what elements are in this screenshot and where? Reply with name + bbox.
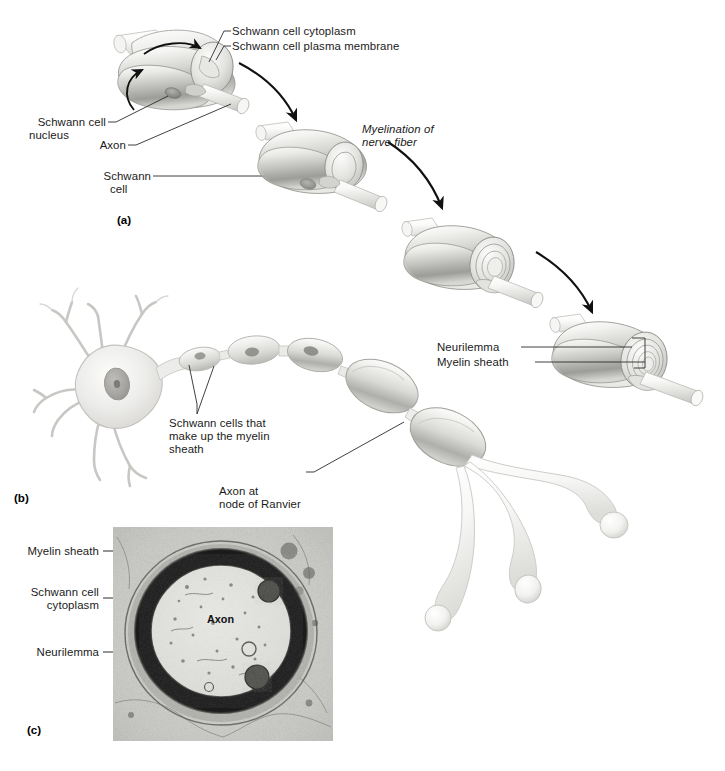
label-schwann-cytoplasm-c-line2: cytoplasm [0, 599, 99, 612]
figure-artwork [0, 0, 725, 771]
panel-a-stage4-myelinated-fiber [549, 314, 705, 407]
label-schwann-cell-cytoplasm: Schwann cell cytoplasm [232, 25, 356, 38]
synaptic-knob-1 [600, 512, 628, 538]
label-schwann-cells-line3: sheath [169, 443, 204, 456]
label-schwann-cell-nucleus-line1: Schwann cell [0, 116, 106, 129]
label-schwann-cells-line2: make up the myelin [169, 430, 270, 443]
stage-arrow-1 [239, 63, 296, 120]
internode-3 [284, 334, 345, 377]
label-myelin-sheath-c: Myelin sheath [0, 545, 99, 558]
label-schwann-cell-plasma-membrane: Schwann cell plasma membrane [232, 40, 399, 53]
myelination-figure: Axon Schwann cell cytoplasm Schwann cell… [0, 0, 725, 771]
label-node-of-ranvier-line2: node of Ranvier [219, 498, 301, 511]
synaptic-knob-3 [425, 605, 451, 631]
label-schwann-cell-line2: cell [110, 183, 128, 196]
label-node-of-ranvier-line1: Axon at [219, 485, 258, 498]
label-neurilemma-a: Neurilemma [437, 341, 499, 354]
label-schwann-cytoplasm-c-line1: Schwann cell [0, 586, 99, 599]
stage-arrow-2 [388, 142, 442, 208]
label-neurilemma-c: Neurilemma [0, 646, 99, 659]
panel-b-id: (b) [14, 491, 29, 504]
label-myelin-sheath-a: Myelin sheath [437, 356, 509, 369]
label-axon: Axon [0, 139, 126, 152]
panel-c-id: (c) [27, 723, 41, 736]
panel-c-electron-micrograph [113, 527, 333, 741]
label-schwann-cell-line1: Schwann [0, 170, 151, 183]
panel-c-axon-label: Axon [207, 613, 234, 625]
internode-2 [227, 334, 281, 366]
stage-arrow-3 [536, 252, 592, 312]
label-myelination-line2: nerve fiber [362, 136, 417, 149]
label-schwann-cells-line1: Schwann cells that [169, 417, 266, 430]
panel-a-stage3-schwann-cell [401, 218, 545, 309]
panel-a-id: (a) [117, 213, 131, 226]
panel-a-stage1-schwann-cell [112, 30, 251, 115]
label-myelination-line1: Myelination of [362, 123, 434, 136]
